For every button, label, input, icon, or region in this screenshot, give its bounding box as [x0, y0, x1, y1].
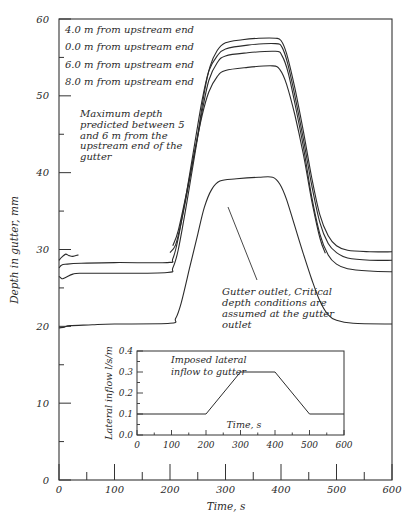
inset-y-axis-title: Lateral inflow l/s/m: [103, 346, 114, 440]
annotation-max-depth: Maximum depthpredicted between 5and 6 m …: [79, 108, 185, 162]
x-tick-label: 200: [159, 484, 180, 495]
chart-figure: 01020304050600100200300400500600 Time, s…: [0, 0, 409, 514]
series-line-3: [173, 66, 326, 253]
x-tick-label: 0: [56, 484, 63, 495]
inset-x-tick-label: 600: [335, 440, 352, 450]
inset-x-tick-label: 500: [301, 440, 318, 450]
annotation-line: outlet: [222, 319, 253, 330]
y-tick-label: 30: [36, 244, 49, 255]
legend-entry: 6.0 m from upstream end: [65, 59, 194, 70]
series-line-0: [170, 38, 392, 253]
y-tick-label: 40: [35, 167, 49, 178]
inset-y-tick-label: 0.2: [119, 388, 134, 398]
legend-entry: 4.0 m from upstream end: [64, 24, 194, 35]
x-tick-label: 300: [216, 484, 236, 495]
annotation-line: gutter: [80, 151, 113, 162]
annotation-line: Maximum depth: [79, 108, 163, 119]
annotation-line: upstream end of the: [80, 140, 183, 151]
x-tick-label: 600: [382, 484, 402, 495]
annotation-leader-line: [228, 207, 257, 280]
inset-x-tick-label: 100: [163, 440, 180, 450]
inset-y-tick-label: 0.1: [119, 409, 133, 419]
annotation-line: depth conditions are: [222, 297, 327, 308]
annotation-line: predicted between 5: [80, 119, 185, 130]
annotation-line: assumed at the gutter: [222, 308, 335, 319]
inset-x-tick-label: 0: [134, 440, 140, 450]
inset-title-line: inflow to gutter: [171, 366, 247, 377]
y-axis-title: Depth in gutter, mm: [8, 196, 20, 305]
y-tick-label: 10: [36, 398, 49, 409]
x-tick-label: 400: [270, 484, 291, 495]
annotation-line: and 6 m from the: [80, 130, 168, 141]
inset-title: Imposed lateralinflow to gutter: [170, 354, 247, 377]
inset-x-tick-label: 400: [265, 440, 283, 450]
y-tick-label: 60: [36, 14, 49, 25]
legend: 4.0 m from upstream end0.0 m from upstre…: [64, 24, 194, 87]
inset-x-tick-label: 300: [232, 440, 249, 450]
y-tick-label: 20: [35, 321, 49, 332]
inset-title-line: Imposed lateral: [170, 354, 247, 365]
x-axis-title: Time, s: [207, 500, 246, 512]
y-tick-label: 50: [36, 90, 49, 101]
inset-y-tick-label: 0.4: [119, 346, 134, 356]
inset-x-axis-title: Time, s: [227, 419, 262, 430]
series-line-5: [59, 254, 78, 260]
depth-chart: 01020304050600100200300400500600 Time, s…: [0, 0, 409, 514]
legend-entry: 8.0 m from upstream end: [65, 76, 194, 87]
x-tick-label: 500: [327, 484, 347, 495]
y-tick-label: 0: [43, 475, 50, 486]
annotation-gutter-outlet: Gutter outlet, Criticaldepth conditions …: [222, 286, 335, 330]
inset-x-tick-label: 200: [196, 440, 214, 450]
annotation-line: Gutter outlet, Critical: [222, 286, 332, 297]
legend-entry: 0.0 m from upstream end: [65, 41, 194, 52]
inset-chart: 0.00.10.20.30.40100200300400500600 Impos…: [103, 346, 353, 450]
x-tick-label: 100: [105, 484, 125, 495]
inset-y-tick-label: 0.3: [119, 367, 134, 377]
inset-y-tick-label: 0.0: [119, 430, 134, 440]
